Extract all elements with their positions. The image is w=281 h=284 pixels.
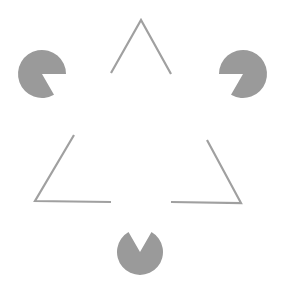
pacmen-group [18, 50, 267, 275]
top-left-pacman [18, 50, 66, 98]
top-corner [111, 20, 171, 74]
outline-triangle-corners [35, 20, 241, 203]
top-right-pacman [219, 50, 267, 98]
bottom-right-corner [171, 140, 241, 203]
kanizsa-figure: Kanizsa triangle illusion [0, 0, 281, 284]
bottom-left-corner [35, 135, 111, 202]
bottom-pacman [117, 232, 163, 275]
illusion-svg [0, 0, 281, 284]
